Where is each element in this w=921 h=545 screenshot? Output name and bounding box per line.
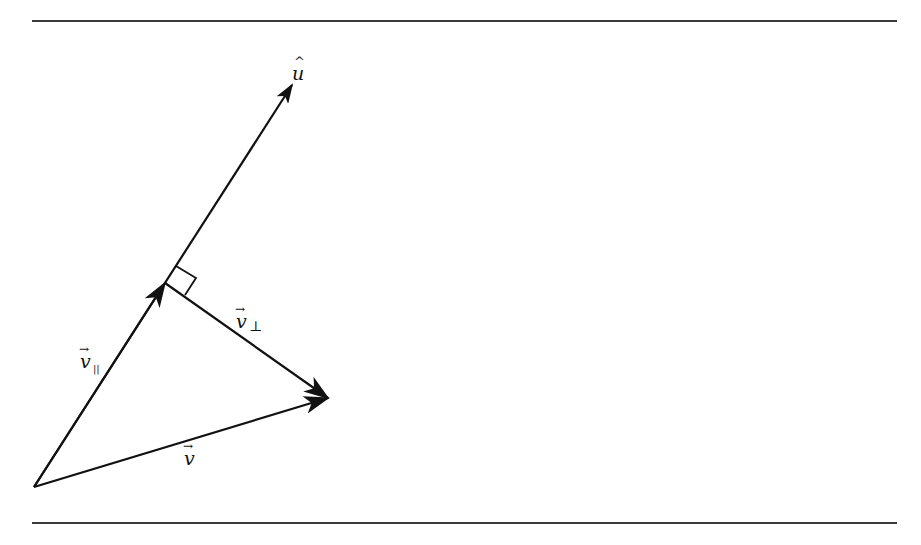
right-angle-marker (176, 266, 196, 295)
svg-text:v: v (184, 447, 195, 469)
svg-text:||: || (93, 363, 100, 375)
svg-text:v: v (236, 310, 247, 332)
v-perp-vector (165, 283, 328, 398)
svg-text:^: ^ (294, 54, 305, 69)
vector-diagram: u ^ → v ⊥ → v || → v (0, 0, 921, 545)
u-hat-label: u ^ (292, 54, 305, 84)
v-label: → v (183, 439, 195, 469)
v-vector (34, 398, 328, 487)
v-perp-label: → v ⊥ (235, 302, 262, 334)
svg-text:v: v (80, 350, 91, 372)
v-parallel-vector (34, 283, 165, 487)
svg-text:⊥: ⊥ (249, 318, 262, 334)
v-parallel-label: → v || (79, 342, 100, 375)
